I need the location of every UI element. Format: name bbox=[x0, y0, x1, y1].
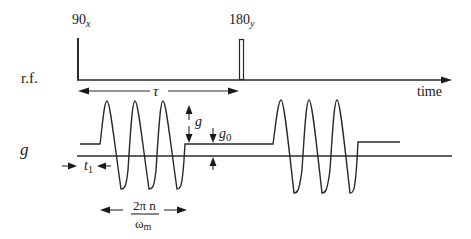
gradient-burst-2 bbox=[272, 100, 400, 193]
g-row-label: g bbox=[20, 140, 29, 159]
t1-label: t1 bbox=[84, 158, 93, 175]
t1-arrow-left-icon bbox=[68, 163, 77, 170]
period-arrow-left-icon bbox=[100, 207, 110, 214]
g-amplitude-label: g bbox=[195, 114, 202, 129]
rf-row-label: r.f. bbox=[21, 70, 38, 86]
pulse-180-bar bbox=[240, 40, 244, 80]
t1-arrow-right-icon bbox=[97, 163, 106, 170]
tau-arrow-left-icon bbox=[78, 88, 89, 95]
g0-arrow-up-icon bbox=[210, 157, 217, 166]
pulse-180-label: 180y bbox=[229, 12, 255, 29]
tau-arrow-right-icon bbox=[228, 88, 239, 95]
time-axis-arrowhead-icon bbox=[441, 77, 452, 84]
gradient-burst-1 bbox=[80, 101, 272, 189]
g-arrow-down-icon bbox=[186, 134, 193, 143]
g0-arrow-down-icon bbox=[210, 134, 217, 143]
g-arrow-up-icon bbox=[186, 105, 193, 114]
time-axis-label: time bbox=[417, 84, 442, 99]
period-arrow-right-icon bbox=[177, 207, 187, 214]
g0-label: g0 bbox=[219, 126, 232, 143]
pulse-90-label: 90x bbox=[72, 12, 91, 29]
pulse-90-bar bbox=[77, 38, 79, 80]
tau-label: τ bbox=[153, 83, 159, 99]
period-denominator: ωm bbox=[135, 216, 152, 232]
pulse-sequence-diagram: r.f. 90x 180y time τ g g g0 t1 2π n ωm bbox=[0, 0, 471, 239]
period-numerator: 2π n bbox=[133, 198, 156, 213]
